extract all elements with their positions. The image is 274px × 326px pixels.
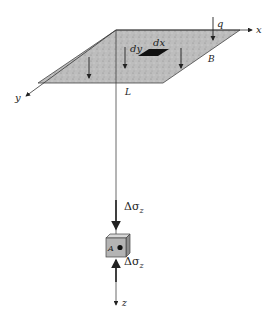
label-dx: dx — [153, 37, 165, 48]
label-y: y — [14, 92, 21, 103]
label-x: x — [256, 24, 262, 35]
stress-diagram: q x y dx dy B L z Δσz Δσz A — [0, 0, 274, 326]
label-dy: dy — [130, 43, 142, 54]
soil-element-A: A — [106, 234, 130, 257]
label-stress-bottom: Δσz — [124, 255, 144, 270]
label-q: q — [217, 18, 223, 29]
label-stress-top: Δσz — [124, 200, 144, 215]
label-A: A — [107, 244, 114, 253]
label-z: z — [121, 298, 127, 308]
label-L: L — [124, 87, 131, 97]
label-B: B — [207, 54, 215, 64]
